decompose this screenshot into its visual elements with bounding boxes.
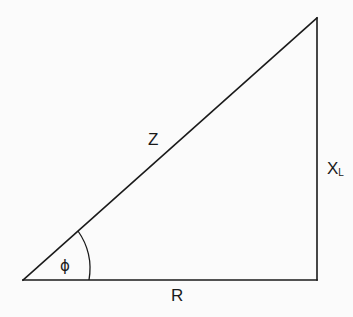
hypotenuse-label: Z: [148, 131, 158, 148]
reactance-label-main: X: [327, 159, 338, 178]
angle-phi-arc: [78, 231, 90, 280]
base-label: R: [171, 287, 183, 304]
angle-label: ϕ: [60, 259, 70, 274]
hypotenuse-z-line: [23, 18, 317, 280]
reactance-label: XL: [327, 160, 344, 178]
reactance-label-subscript: L: [338, 167, 344, 178]
impedance-triangle: [0, 0, 353, 317]
